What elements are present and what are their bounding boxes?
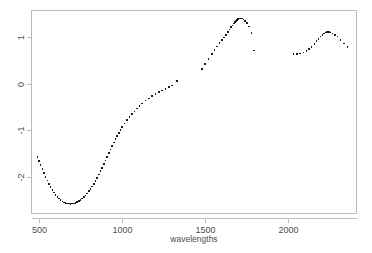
data-point bbox=[219, 42, 221, 44]
data-point bbox=[42, 168, 44, 170]
data-point bbox=[47, 180, 49, 182]
data-point bbox=[325, 32, 327, 34]
data-point bbox=[68, 203, 70, 205]
data-point bbox=[38, 160, 40, 162]
scatter-plot-figure: 500100015002000 wavelengths 10-1-2 bbox=[0, 0, 372, 253]
data-point bbox=[116, 135, 118, 137]
data-point bbox=[168, 86, 170, 88]
data-point bbox=[65, 202, 67, 204]
data-point bbox=[246, 22, 248, 24]
data-point bbox=[233, 23, 235, 25]
data-point bbox=[95, 180, 97, 182]
data-point bbox=[296, 53, 298, 55]
data-point bbox=[201, 68, 203, 70]
data-point bbox=[134, 111, 136, 113]
data-point bbox=[299, 53, 301, 55]
data-point bbox=[110, 149, 112, 151]
data-point bbox=[81, 198, 83, 200]
data-point bbox=[311, 46, 313, 48]
data-point bbox=[251, 32, 253, 34]
data-point bbox=[337, 36, 339, 38]
data-point bbox=[118, 132, 120, 134]
data-point bbox=[62, 201, 64, 203]
data-point bbox=[314, 43, 316, 45]
data-point bbox=[308, 48, 310, 50]
data-point bbox=[332, 33, 334, 35]
data-point bbox=[253, 50, 255, 52]
data-point bbox=[100, 170, 102, 172]
data-point bbox=[88, 190, 90, 192]
data-point bbox=[227, 31, 229, 33]
x-tick-label: 1000 bbox=[112, 225, 132, 235]
data-point bbox=[45, 176, 47, 178]
data-point bbox=[124, 123, 126, 125]
data-point bbox=[66, 203, 68, 205]
data-point bbox=[155, 93, 157, 95]
data-point bbox=[214, 49, 216, 51]
figure-background bbox=[0, 0, 372, 253]
data-point bbox=[91, 186, 93, 188]
data-point bbox=[165, 88, 167, 90]
y-tick-label: -2 bbox=[16, 173, 26, 181]
data-point bbox=[161, 90, 163, 92]
x-axis-title: wavelengths bbox=[169, 234, 217, 244]
data-point bbox=[120, 129, 122, 131]
data-point bbox=[244, 20, 246, 22]
data-point bbox=[229, 29, 231, 31]
data-point bbox=[70, 203, 72, 205]
data-point bbox=[58, 198, 60, 200]
data-point bbox=[204, 63, 206, 65]
plot-canvas: 500100015002000 wavelengths 10-1-2 bbox=[0, 0, 372, 253]
data-point bbox=[40, 164, 42, 166]
data-point bbox=[43, 172, 45, 174]
data-point bbox=[223, 37, 225, 39]
x-tick-label: 500 bbox=[32, 225, 47, 235]
data-point bbox=[76, 201, 78, 203]
data-point bbox=[330, 32, 332, 34]
data-point bbox=[176, 80, 178, 82]
data-point bbox=[334, 34, 336, 36]
data-point bbox=[208, 58, 210, 60]
data-point bbox=[303, 52, 305, 54]
data-point bbox=[129, 116, 131, 118]
data-point bbox=[171, 85, 173, 87]
data-point bbox=[340, 39, 342, 41]
data-point bbox=[211, 53, 213, 55]
data-point bbox=[60, 199, 62, 201]
data-point bbox=[145, 100, 147, 102]
data-point bbox=[141, 103, 143, 105]
data-point bbox=[322, 34, 324, 36]
data-point bbox=[148, 98, 150, 100]
data-point bbox=[96, 177, 98, 179]
data-point bbox=[37, 156, 39, 158]
data-point bbox=[73, 203, 75, 205]
y-tick-label: 1 bbox=[16, 35, 26, 40]
y-tick-label: -1 bbox=[16, 126, 26, 134]
data-point bbox=[63, 202, 65, 204]
data-point bbox=[136, 108, 138, 110]
data-point bbox=[93, 183, 95, 185]
data-point bbox=[230, 26, 232, 28]
data-point bbox=[53, 192, 55, 194]
data-point bbox=[131, 113, 133, 115]
data-point bbox=[347, 46, 349, 48]
data-point bbox=[108, 152, 110, 154]
data-point bbox=[221, 39, 223, 41]
data-point bbox=[293, 53, 295, 55]
data-point bbox=[101, 167, 103, 169]
data-point bbox=[248, 26, 250, 28]
data-point bbox=[106, 156, 108, 158]
data-point bbox=[85, 195, 87, 197]
data-point bbox=[111, 145, 113, 147]
data-point bbox=[328, 31, 330, 33]
data-point bbox=[115, 138, 117, 140]
data-point bbox=[86, 193, 88, 195]
data-point bbox=[232, 25, 234, 27]
data-point bbox=[151, 95, 153, 97]
data-point bbox=[343, 43, 345, 45]
data-point bbox=[158, 91, 160, 93]
y-tick-label: 0 bbox=[16, 82, 26, 87]
data-point bbox=[75, 202, 77, 204]
data-point bbox=[80, 199, 82, 201]
data-point bbox=[306, 50, 308, 52]
